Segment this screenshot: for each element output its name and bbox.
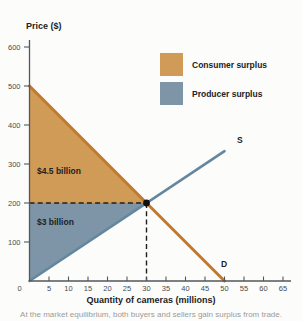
supply-curve-label: S	[237, 135, 243, 145]
x-tick-label: 25	[123, 284, 131, 293]
x-tick-label: 0	[17, 284, 21, 293]
y-tick-label: 500	[8, 82, 21, 91]
producer-surplus-value-label: $3 billion	[37, 217, 74, 227]
x-axis-title: Quantity of cameras (millions)	[0, 295, 302, 305]
x-tick-label: 15	[84, 284, 92, 293]
x-tick-label: 5	[47, 284, 51, 293]
y-tick-label: 400	[8, 121, 21, 130]
y-tick-label: 200	[8, 199, 21, 208]
x-tick-label: 45	[201, 284, 209, 293]
x-tick-label: 30	[142, 284, 150, 293]
y-axis-title: Price ($)	[26, 21, 62, 31]
x-tick-label: 40	[181, 284, 189, 293]
x-tick-label: 50	[220, 284, 228, 293]
x-tick-label: 10	[64, 284, 72, 293]
y-tick-label: 300	[8, 160, 21, 169]
y-tick-label: 100	[8, 238, 21, 247]
x-tick-label: 65	[279, 284, 287, 293]
legend-label-consumer-surplus: Consumer surplus	[192, 60, 267, 70]
consumer-surplus-value-label: $4.5 billion	[37, 166, 81, 176]
x-tick-label: 55	[240, 284, 248, 293]
x-tick-label: 60	[259, 284, 267, 293]
equilibrium-point	[143, 200, 150, 207]
legend: Consumer surplus Producer surplus	[160, 53, 267, 111]
chart-canvas: 1002003004005006000510152025303540455055…	[0, 0, 302, 321]
x-tick-label: 35	[162, 284, 170, 293]
demand-curve-label: D	[221, 259, 227, 269]
y-tick-label: 600	[8, 43, 21, 52]
legend-item-producer-surplus: Producer surplus	[160, 82, 267, 105]
legend-item-consumer-surplus: Consumer surplus	[160, 53, 267, 76]
surplus-chart-figure: 1002003004005006000510152025303540455055…	[0, 0, 302, 321]
x-tick-label: 20	[103, 284, 111, 293]
legend-label-producer-surplus: Producer surplus	[192, 89, 262, 99]
consumer-surplus-swatch	[160, 53, 183, 76]
producer-surplus-swatch	[160, 82, 183, 105]
figure-caption: At the market equilibrium, both buyers a…	[0, 310, 302, 319]
